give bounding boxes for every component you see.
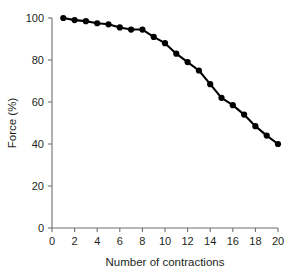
data-point: Force: (1, 100)	[60, 15, 66, 21]
data-point: Force: (17, 54)	[241, 112, 247, 118]
data-point: Force: (4, 97.5)	[94, 20, 100, 26]
data-point: Force: (11, 83)	[173, 51, 179, 57]
data-point: Force: (2, 99)	[72, 17, 78, 23]
x-tick-label: 14	[204, 235, 216, 247]
chart-plot-area: Force: (1, 100)Force: (2, 99)Force: (3, …	[0, 0, 294, 276]
data-point: Force: (10, 88)	[162, 40, 168, 46]
x-axis-title: Number of contractions	[106, 256, 225, 268]
data-point: Force: (16, 58.5)	[230, 102, 236, 108]
data-point: Force: (7, 94.5)	[128, 26, 134, 32]
y-tick-label: 80	[32, 54, 44, 66]
x-tick-label: 10	[159, 235, 171, 247]
data-point: Force: (5, 97)	[105, 21, 111, 27]
x-tick-label: 12	[181, 235, 193, 247]
y-tick-label: 40	[32, 138, 44, 150]
axis-labels-group: 02040608010002468101214161820Number of c…	[6, 12, 284, 268]
data-point: Force: (12, 79)	[185, 59, 191, 65]
x-tick-label: 2	[72, 235, 78, 247]
x-tick-label: 16	[227, 235, 239, 247]
data-point: Force: (18, 48.5)	[252, 123, 258, 129]
data-point: Force: (6, 95.5)	[117, 24, 123, 30]
data-point: Force: (3, 98.5)	[83, 18, 89, 24]
x-tick-label: 8	[139, 235, 145, 247]
data-point: Force: (15, 62)	[218, 95, 224, 101]
x-tick-label: 18	[249, 235, 261, 247]
chart-figure: Force: (1, 100)Force: (2, 99)Force: (3, …	[0, 0, 294, 276]
x-tick-label: 0	[49, 235, 55, 247]
series-line-force	[63, 18, 278, 144]
data-point: Force: (8, 94.5)	[139, 26, 145, 32]
y-axis-title: Force (%)	[6, 98, 18, 149]
data-point: Force: (20, 40)	[275, 141, 281, 147]
data-series-group: Force: (1, 100)Force: (2, 99)Force: (3, …	[60, 15, 281, 147]
y-tick-label: 20	[32, 180, 44, 192]
data-point: Force: (9, 91)	[151, 34, 157, 40]
axes-group	[48, 18, 278, 232]
x-tick-label: 20	[272, 235, 284, 247]
x-tick-label: 6	[117, 235, 123, 247]
y-tick-label: 0	[38, 222, 44, 234]
x-tick-label: 4	[94, 235, 100, 247]
y-tick-label: 60	[32, 96, 44, 108]
y-tick-label: 100	[26, 12, 44, 24]
data-point: Force: (19, 44)	[264, 133, 270, 139]
data-point: Force: (13, 75)	[196, 67, 202, 73]
data-point: Force: (14, 68.5)	[207, 81, 213, 87]
